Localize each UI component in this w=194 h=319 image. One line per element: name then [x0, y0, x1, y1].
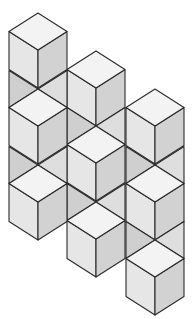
right-column — [126, 89, 184, 315]
cube-canvas — [0, 0, 194, 319]
cube-diagram: Isometric cube arrangement — [0, 0, 194, 319]
middle-column — [67, 51, 125, 277]
left-column — [9, 13, 67, 240]
